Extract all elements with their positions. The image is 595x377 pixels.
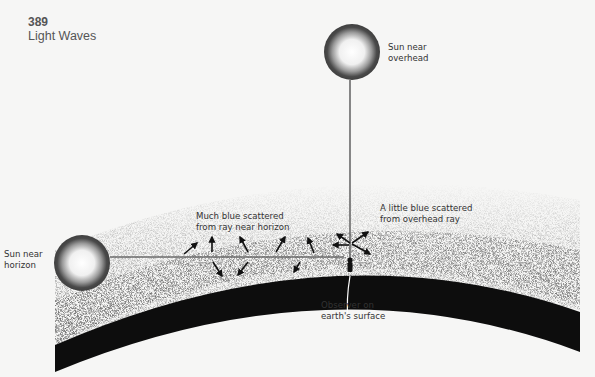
- scattering-diagram: [0, 0, 595, 377]
- label-sun-horizon: Sun near horizon: [4, 249, 43, 271]
- label-observer: Observer on earth's surface: [321, 300, 385, 322]
- label-sun-overhead: Sun near overhead: [388, 42, 428, 64]
- label-much-blue-scattered: Much blue scattered from ray near horizo…: [196, 211, 289, 233]
- label-little-blue-scattered: A little blue scattered from overhead ra…: [380, 203, 472, 225]
- sun-horizon-icon: [54, 235, 110, 291]
- sun-overhead-icon: [324, 24, 380, 80]
- observer-icon: [347, 257, 352, 272]
